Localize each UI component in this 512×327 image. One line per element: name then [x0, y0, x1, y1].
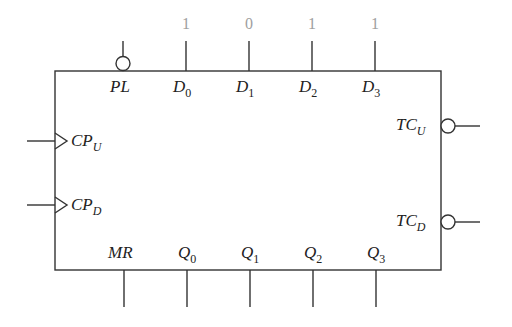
- label-q2: Q2: [304, 244, 322, 265]
- label-d3: D3: [362, 78, 380, 99]
- label-tcd: TCD: [396, 212, 425, 233]
- label-q0: Q0: [178, 244, 196, 265]
- d2-value: 1: [308, 16, 316, 32]
- label-d2: D2: [299, 78, 317, 99]
- d3-value: 1: [371, 16, 379, 32]
- counter-block-diagram: [0, 0, 512, 327]
- tcu-inversion-bubble-icon: [441, 119, 455, 133]
- d1-value: 0: [245, 16, 253, 32]
- cpu-clock-triangle-icon: [55, 133, 67, 149]
- pl-inversion-bubble-icon: [116, 57, 130, 71]
- cpd-clock-triangle-icon: [55, 197, 67, 213]
- d0-value: 1: [182, 16, 190, 32]
- label-tcu: TCU: [396, 116, 425, 137]
- counter-body: [55, 71, 441, 270]
- label-mr: MR: [108, 244, 133, 261]
- label-q3: Q3: [367, 244, 385, 265]
- label-d1: D1: [236, 78, 254, 99]
- label-pl: PL: [110, 78, 130, 95]
- label-d0: D0: [173, 78, 191, 99]
- label-q1: Q1: [241, 244, 259, 265]
- label-cpu: CPU: [71, 132, 101, 153]
- tcd-inversion-bubble-icon: [441, 215, 455, 229]
- label-cpd: CPD: [71, 196, 101, 217]
